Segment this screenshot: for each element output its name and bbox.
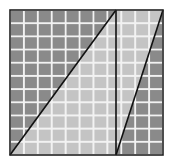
grid-cell [150, 64, 162, 75]
grid-cell [150, 103, 162, 114]
grid-cell [94, 51, 106, 62]
grid-cell [122, 143, 134, 154]
grid-cell [53, 24, 65, 35]
grid-cell [39, 77, 51, 88]
grid-cell [67, 90, 79, 101]
grid-cell [25, 51, 37, 62]
grid-cell [53, 51, 65, 62]
grid-cell [11, 116, 23, 127]
grid-cell [136, 130, 148, 141]
grid-cell [94, 11, 106, 22]
grid-cell [122, 64, 134, 75]
grid-cell [122, 24, 134, 35]
grid-cell [122, 51, 134, 62]
grid-cell [39, 130, 51, 141]
grid-cell [67, 143, 79, 154]
grid-cell [67, 103, 79, 114]
grid-cell [11, 37, 23, 48]
grid-cell [94, 90, 106, 101]
grid-cell [11, 11, 23, 22]
grid-cell [81, 116, 93, 127]
grid-cell [136, 90, 148, 101]
grid-cell [122, 37, 134, 48]
grid-cell [53, 11, 65, 22]
grid-cell [150, 90, 162, 101]
grid-cell [108, 37, 120, 48]
grid-cell [122, 11, 134, 22]
grid-cell [25, 103, 37, 114]
grid-cell [81, 103, 93, 114]
grid-cell [11, 64, 23, 75]
grid-cell [150, 77, 162, 88]
grid-cell [81, 130, 93, 141]
grid-cell [94, 103, 106, 114]
grid-cell [108, 103, 120, 114]
grid-cell [136, 24, 148, 35]
grid-cell [67, 130, 79, 141]
grid-cell [150, 116, 162, 127]
grid-cell [94, 37, 106, 48]
grid-cell [39, 11, 51, 22]
grid-cell [25, 64, 37, 75]
grid-cell [150, 51, 162, 62]
grid-cell [122, 90, 134, 101]
grid-cell [53, 37, 65, 48]
grid-cell [39, 51, 51, 62]
grid-cell [108, 77, 120, 88]
grid-cell [25, 143, 37, 154]
grid-cell [25, 11, 37, 22]
grid-cell [108, 64, 120, 75]
grid-cell [108, 24, 120, 35]
grid-cell [53, 130, 65, 141]
grid-cell [53, 116, 65, 127]
grid-cell [122, 77, 134, 88]
grid-cell [94, 130, 106, 141]
grid-cell [81, 143, 93, 154]
grid-cell [39, 64, 51, 75]
grid-cell [94, 77, 106, 88]
grid-cell [25, 24, 37, 35]
grid-cell [136, 11, 148, 22]
grid-cell [81, 90, 93, 101]
grid-cell [67, 51, 79, 62]
grid-cell [67, 37, 79, 48]
grid-cell [94, 116, 106, 127]
grid-cell [11, 90, 23, 101]
grid-cell [39, 90, 51, 101]
grid-cell [94, 64, 106, 75]
grid-cell [53, 64, 65, 75]
grid-cell [53, 143, 65, 154]
grid-cell [136, 37, 148, 48]
grid-cell [150, 143, 162, 154]
grid-cell [136, 116, 148, 127]
grid-cell [108, 116, 120, 127]
grid-cell [81, 24, 93, 35]
grid-cell [39, 37, 51, 48]
grid-cell [108, 51, 120, 62]
grid-cell [108, 90, 120, 101]
grid-cell [136, 143, 148, 154]
grid-cell [67, 77, 79, 88]
grid-cell [67, 24, 79, 35]
grid-cell [81, 64, 93, 75]
grid-cell [150, 130, 162, 141]
grid-cell [136, 103, 148, 114]
grid-cell [39, 116, 51, 127]
grid-cell [67, 116, 79, 127]
grid-cell [25, 77, 37, 88]
grid-cell [25, 90, 37, 101]
grid-diagram [0, 0, 186, 163]
grid-cell [11, 51, 23, 62]
grid-cell [39, 143, 51, 154]
grid-cell [11, 24, 23, 35]
grid-cell [108, 130, 120, 141]
grid-diagram-canvas [0, 0, 186, 163]
grid-cell [67, 11, 79, 22]
grid-cell [81, 77, 93, 88]
grid-cell [11, 103, 23, 114]
grid-cell [94, 143, 106, 154]
grid-cell [81, 11, 93, 22]
grid-cell [53, 103, 65, 114]
grid-cell [11, 77, 23, 88]
grid-cell [25, 37, 37, 48]
